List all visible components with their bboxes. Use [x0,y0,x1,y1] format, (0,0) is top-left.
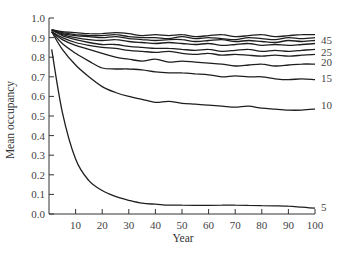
x-tick-label: 20 [97,219,109,231]
series-lines [52,30,315,208]
x-tick-label: 50 [177,219,189,231]
series-label-45: 45 [321,34,333,46]
y-tick-label: 0.6 [31,90,45,102]
series-label-15: 15 [321,72,333,84]
series-labels: 45252015105 [321,34,333,213]
y-tick-label: 0.0 [31,208,45,220]
y-tick-label: 0.8 [31,51,45,63]
x-tick-label: 10 [70,219,82,231]
y-tick-label: 0.7 [31,71,45,83]
x-tick-label: 40 [150,219,162,231]
line-chart: 0.00.10.20.30.40.50.60.70.80.91.0 102030… [0,0,338,253]
x-tick-label: 100 [307,219,324,231]
x-tick-label: 60 [203,219,215,231]
y-tick-label: 0.3 [31,149,45,161]
y-axis-title: Mean occupancy [4,81,17,159]
y-tick-label: 0.1 [31,188,45,200]
y-axis: 0.00.10.20.30.40.50.60.70.80.91.0 [31,12,54,220]
y-tick-label: 0.9 [31,32,45,44]
series-label-10: 10 [321,99,333,111]
y-tick-label: 0.5 [31,110,45,122]
y-tick-label: 0.2 [31,169,45,181]
x-axis: 102030405060708090100 [49,209,324,231]
x-axis-title: Year [172,232,193,244]
y-tick-label: 1.0 [31,12,45,24]
series-label-5: 5 [321,201,327,213]
y-tick-label: 0.4 [31,130,45,142]
x-tick-label: 30 [123,219,135,231]
series-line-25 [52,30,315,52]
series-label-20: 20 [321,56,333,68]
x-tick-label: 90 [283,219,295,231]
x-tick-label: 70 [230,219,242,231]
x-tick-label: 80 [256,219,268,231]
